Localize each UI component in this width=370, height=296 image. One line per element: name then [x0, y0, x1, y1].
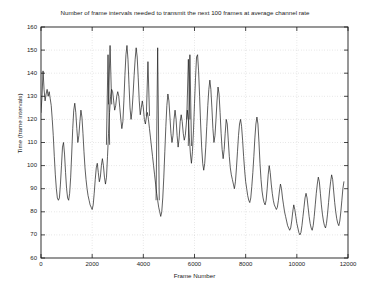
y-tick-label: 80: [15, 208, 37, 214]
y-tick-label: 100: [15, 162, 37, 168]
y-tick-label: 120: [15, 116, 37, 122]
x-axis-label: Frame Number: [41, 272, 348, 279]
x-tick-label: 8000: [231, 261, 261, 267]
y-tick-label: 90: [15, 185, 37, 191]
y-tick-label: 160: [15, 24, 37, 30]
x-tick-label: 12000: [333, 261, 363, 267]
plot-area: [0, 0, 370, 296]
x-tick-label: 0: [26, 261, 56, 267]
x-tick-label: 4000: [128, 261, 158, 267]
y-tick-label: 150: [15, 47, 37, 53]
y-tick-label: 70: [15, 231, 37, 237]
y-tick-label: 110: [15, 139, 37, 145]
y-tick-label: 130: [15, 93, 37, 99]
x-tick-label: 10000: [282, 261, 312, 267]
y-axis-label: Time (frame intervals): [16, 74, 23, 174]
y-tick-label: 140: [15, 70, 37, 76]
x-tick-label: 2000: [77, 261, 107, 267]
figure-canvas: Number of frame intervals needed to tran…: [0, 0, 370, 296]
x-tick-label: 6000: [180, 261, 210, 267]
y-tick-label: 60: [15, 255, 37, 261]
